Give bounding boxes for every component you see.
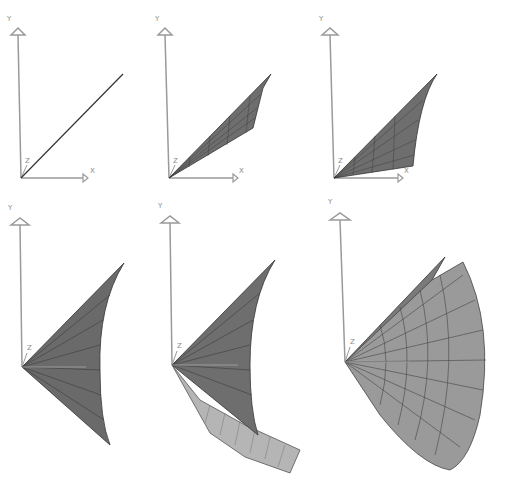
x-axis-arrow-icon (233, 174, 238, 182)
x-axis-label: X (239, 168, 244, 175)
panel-1-graphic (0, 0, 160, 195)
panel-5-fan-with-fold: Y Z (150, 195, 320, 486)
panel-1-line: Y X Z (0, 0, 160, 195)
y-axis-label: Y (319, 16, 323, 23)
z-axis-label: Z (27, 345, 32, 352)
y-axis-arrow-icon (322, 28, 338, 35)
fan-surface (22, 263, 124, 445)
x-axis-label: X (90, 168, 95, 175)
x-axis-arrow-icon (398, 174, 403, 182)
panel-4-graphic (0, 195, 160, 486)
x-axis-label: X (404, 168, 409, 175)
panel-2-thin-sweep: Y X Z (150, 0, 320, 195)
y-axis-label: Y (155, 16, 159, 23)
panel-6-graphic (320, 195, 505, 486)
panel-3-wider-sweep: Y X Z (315, 0, 505, 195)
y-axis-label: Y (8, 205, 12, 212)
z-axis-label: Z (177, 343, 182, 350)
fan-surface (172, 260, 275, 435)
swept-surface (334, 74, 437, 178)
panel-3-graphic (315, 0, 505, 195)
z-axis-label: Z (173, 158, 178, 165)
panel-4-fan-surface: Y Z (0, 195, 160, 486)
z-axis-label: Z (350, 339, 355, 346)
y-axis (18, 35, 21, 178)
z-axis (21, 165, 27, 178)
panel-6-full-revolution: Y Z (320, 195, 505, 486)
y-axis-label: Y (7, 16, 11, 23)
panel-5-graphic (150, 195, 320, 486)
y-axis-label: Y (158, 203, 162, 210)
z-axis-label: Z (25, 158, 30, 165)
y-axis-arrow-icon (158, 28, 172, 35)
y-axis-arrow-icon (11, 218, 29, 225)
swept-surface (169, 74, 271, 178)
x-axis-arrow-icon (83, 174, 88, 182)
panel-2-graphic (150, 0, 320, 195)
y-axis-arrow-icon (161, 216, 179, 223)
y-axis-arrow-icon (330, 213, 350, 220)
y-axis-label: Y (328, 199, 332, 206)
z-axis-label: Z (338, 158, 343, 165)
generating-line (21, 74, 123, 178)
y-axis-arrow-icon (11, 28, 25, 35)
